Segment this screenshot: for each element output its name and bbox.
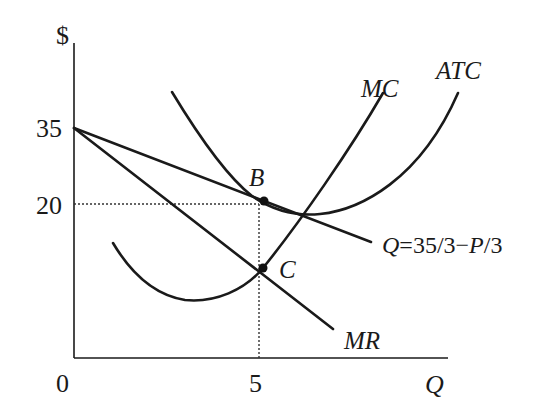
point-b <box>260 197 269 206</box>
x-tick-0: 0 <box>56 369 69 398</box>
mc-label: MC <box>360 75 399 102</box>
y-axis-label: $ <box>56 21 69 50</box>
y-tick-20: 20 <box>36 191 62 220</box>
demand-curve <box>74 128 371 242</box>
point-c <box>259 264 268 273</box>
point-b-label: B <box>249 164 264 191</box>
mc-curve <box>113 93 383 300</box>
demand-label: Q=35/3−P/3 <box>382 232 502 258</box>
point-c-label: C <box>279 256 296 283</box>
x-tick-5: 5 <box>249 369 262 398</box>
atc-label: ATC <box>434 57 481 84</box>
x-axis-label: Q <box>425 370 444 399</box>
mr-label: MR <box>343 327 380 354</box>
monopoly-cost-diagram: $ Q 35 20 0 5 MC ATC B C Q=35/3−P/3 MR <box>0 0 556 414</box>
y-tick-35: 35 <box>36 114 62 143</box>
